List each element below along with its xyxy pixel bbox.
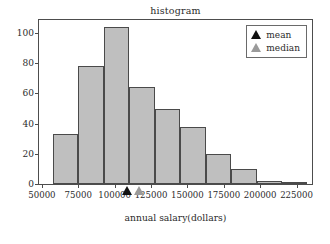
y-tick-mark (35, 63, 39, 64)
chart-title: histogram (38, 5, 313, 16)
y-tick-label: 100 (17, 28, 34, 38)
histogram-bar (180, 127, 205, 184)
x-tick-mark (224, 184, 225, 188)
x-tick-mark (78, 184, 79, 188)
x-tick-label: 75000 (65, 190, 92, 200)
y-tick-mark (35, 184, 39, 185)
x-tick-label: 150000 (171, 190, 204, 200)
y-tick-label: 0 (28, 179, 34, 189)
x-tick-label: 200000 (244, 190, 277, 200)
x-axis-label: annual salary(dollars) (38, 212, 313, 223)
legend-item: mean (251, 28, 300, 41)
y-tick-label: 60 (23, 88, 34, 98)
x-tick-mark (151, 184, 152, 188)
y-tick-mark (35, 154, 39, 155)
histogram-bar (206, 154, 231, 184)
legend-label: mean (266, 30, 291, 40)
legend: meanmedian (246, 25, 307, 58)
histogram-figure: histogram 020406080100 50000750001000001… (0, 0, 330, 244)
y-tick-label: 20 (23, 149, 34, 159)
marker-mean-icon (122, 186, 132, 195)
x-tick-label: 50000 (28, 190, 55, 200)
y-tick-mark (35, 33, 39, 34)
histogram-bar (129, 87, 154, 184)
x-tick-mark (115, 184, 116, 188)
histogram-bar (78, 66, 103, 184)
histogram-bar (282, 182, 307, 184)
y-tick-mark (35, 93, 39, 94)
y-tick-label: 40 (23, 119, 34, 129)
legend-label: median (266, 43, 300, 53)
histogram-bar (155, 109, 180, 184)
x-tick-mark (297, 184, 298, 188)
x-tick-mark (187, 184, 188, 188)
y-tick-mark (35, 124, 39, 125)
histogram-bar (53, 134, 78, 184)
x-tick-label: 225000 (280, 190, 313, 200)
x-tick-mark (42, 184, 43, 188)
y-tick-label: 80 (23, 58, 34, 68)
x-tick-label: 175000 (207, 190, 240, 200)
x-tick-mark (260, 184, 261, 188)
histogram-bar (104, 27, 129, 184)
legend-mean-icon (251, 30, 261, 39)
marker-median-icon (134, 186, 144, 195)
plot-area: 020406080100 500007500010000012500015000… (38, 19, 313, 185)
histogram-bar (231, 169, 256, 184)
legend-item: median (251, 41, 300, 54)
legend-median-icon (251, 43, 261, 52)
